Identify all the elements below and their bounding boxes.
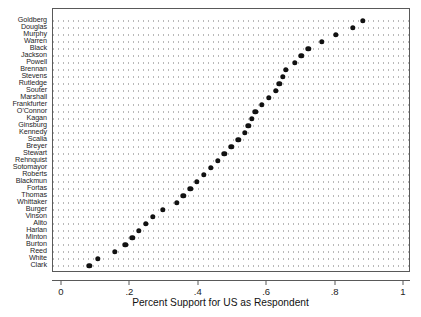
gridline-dotted	[53, 153, 409, 155]
gridline-dotted	[53, 34, 409, 36]
data-point[interactable]	[87, 263, 92, 268]
data-point[interactable]	[201, 172, 206, 177]
data-point[interactable]	[242, 130, 247, 135]
data-point[interactable]	[194, 179, 199, 184]
data-point[interactable]	[160, 207, 165, 212]
data-point[interactable]	[319, 39, 324, 44]
gridline-dotted	[53, 251, 409, 253]
x-axis-tick	[129, 280, 130, 285]
gridline-dotted	[53, 265, 409, 267]
gridline-dotted	[53, 244, 409, 246]
x-axis-tick-label: .4	[194, 286, 202, 297]
data-point[interactable]	[188, 186, 193, 191]
data-point[interactable]	[292, 60, 297, 65]
data-point[interactable]	[299, 53, 304, 58]
plot-inner	[53, 9, 409, 271]
gridline-dotted	[53, 20, 409, 22]
data-point[interactable]	[280, 74, 285, 79]
data-point[interactable]	[129, 235, 134, 240]
gridline-dotted	[53, 97, 409, 99]
gridline-dotted	[53, 55, 409, 57]
gridline-dotted	[53, 167, 409, 169]
x-axis-tick-label: 0	[58, 286, 63, 297]
gridline-dotted	[53, 209, 409, 211]
gridline-dotted	[53, 118, 409, 120]
x-axis-title-text: Percent Support for US as Respondent	[132, 297, 309, 309]
gridline-dotted	[53, 139, 409, 141]
data-point[interactable]	[276, 81, 281, 86]
x-axis-tick-label: .6	[262, 286, 270, 297]
data-point[interactable]	[249, 116, 254, 121]
data-point[interactable]	[253, 109, 258, 114]
data-point[interactable]	[181, 193, 186, 198]
x-axis-tick	[403, 280, 404, 285]
gridline-dotted	[53, 181, 409, 183]
gridline-dotted	[53, 202, 409, 204]
y-axis-tick-label: Clark	[30, 261, 47, 268]
data-point[interactable]	[273, 88, 278, 93]
gridline-dotted	[53, 216, 409, 218]
gridline-dotted	[53, 41, 409, 43]
dot-plot-figure: GoldbergDouglasMurphyWarrenBlackJacksonP…	[0, 0, 421, 317]
x-axis-tick-label: 1	[400, 286, 405, 297]
x-axis-title: Percent Support for US as Respondent	[0, 297, 421, 309]
data-point[interactable]	[95, 256, 100, 261]
data-point[interactable]	[333, 32, 338, 37]
gridline-dotted	[53, 83, 409, 85]
x-axis-tick	[266, 280, 267, 285]
gridline-dotted	[53, 90, 409, 92]
data-point[interactable]	[266, 95, 271, 100]
gridline-dotted	[53, 125, 409, 127]
gridline-dotted	[53, 132, 409, 134]
x-axis-tick	[61, 280, 62, 285]
gridline-dotted	[53, 258, 409, 260]
gridline-dotted	[53, 69, 409, 71]
data-point[interactable]	[150, 214, 155, 219]
gridline-dotted	[53, 76, 409, 78]
data-point[interactable]	[306, 46, 311, 51]
x-axis-tick-label: .8	[331, 286, 339, 297]
data-point[interactable]	[222, 151, 227, 156]
data-point[interactable]	[143, 221, 148, 226]
gridline-dotted	[53, 104, 409, 106]
gridline-dotted	[53, 195, 409, 197]
x-axis-tick	[197, 280, 198, 285]
x-axis-line	[52, 280, 410, 281]
data-point[interactable]	[246, 123, 251, 128]
gridline-dotted	[53, 188, 409, 190]
data-point[interactable]	[259, 102, 264, 107]
data-point[interactable]	[112, 249, 117, 254]
gridline-dotted	[53, 174, 409, 176]
gridline-dotted	[53, 111, 409, 113]
gridline-dotted	[53, 160, 409, 162]
x-axis-tick	[334, 280, 335, 285]
data-point[interactable]	[360, 18, 365, 23]
data-point[interactable]	[208, 165, 213, 170]
data-point[interactable]	[174, 200, 179, 205]
data-point[interactable]	[136, 228, 141, 233]
gridline-dotted	[53, 223, 409, 225]
data-point[interactable]	[350, 25, 355, 30]
x-axis-tick-label: .2	[125, 286, 133, 297]
data-point[interactable]	[229, 144, 234, 149]
gridline-dotted	[53, 48, 409, 50]
data-point[interactable]	[215, 158, 220, 163]
data-point[interactable]	[235, 137, 240, 142]
gridline-dotted	[53, 62, 409, 64]
plot-frame	[52, 8, 410, 272]
gridline-dotted	[53, 27, 409, 29]
gridline-dotted	[53, 230, 409, 232]
gridline-dotted	[53, 237, 409, 239]
data-point[interactable]	[123, 242, 128, 247]
data-point[interactable]	[283, 67, 288, 72]
